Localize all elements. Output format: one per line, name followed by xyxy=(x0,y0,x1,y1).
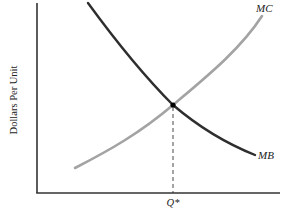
marginal-benefit-cost-chart: MC MB Q* Dollars Per Unit xyxy=(0,0,285,214)
equilibrium-point xyxy=(170,102,175,107)
q-star-label: Q* xyxy=(167,197,181,208)
y-axis-label: Dollars Per Unit xyxy=(8,66,19,135)
mc-label: MC xyxy=(255,2,273,14)
mb-curve xyxy=(88,3,255,155)
mb-label: MB xyxy=(257,149,274,161)
